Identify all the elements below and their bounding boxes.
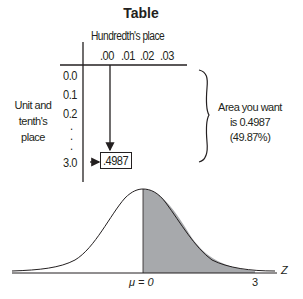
curly-brace-icon bbox=[199, 70, 209, 162]
z-value-label: 3 bbox=[252, 276, 258, 288]
diagram-lines bbox=[0, 0, 303, 299]
z-axis-label: Z bbox=[281, 264, 288, 276]
mean-label: μ = 0 bbox=[129, 276, 154, 288]
shaded-area bbox=[143, 189, 255, 273]
